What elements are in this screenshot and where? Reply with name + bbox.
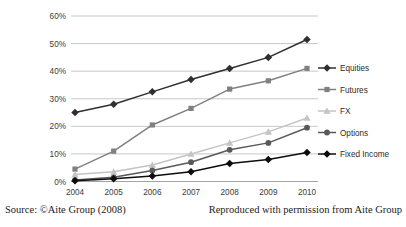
y-tick-label: 10% (50, 150, 66, 159)
x-tick-label: 2009 (259, 188, 278, 197)
marker-square (266, 78, 271, 83)
legend: EquitiesFuturesFXOptionsFixed Income (318, 64, 390, 159)
x-tick-label: 2007 (182, 188, 201, 197)
legend-item-options[interactable]: Options (318, 129, 368, 138)
marker-square (304, 66, 309, 71)
y-tick-label: 30% (50, 95, 66, 104)
caption-row: Source: ©Aite Group (2008) Reproduced wi… (0, 198, 406, 227)
legend-item-futures[interactable]: Futures (318, 86, 368, 95)
figure: 0%10%20%30%40%50%60%20042005200620072008… (0, 0, 406, 227)
marker-diamond (265, 54, 273, 62)
x-tick-label: 2004 (66, 188, 85, 197)
source-caption: Source: ©Aite Group (2008) (5, 204, 126, 215)
marker-square (72, 166, 77, 171)
marker-diamond (265, 156, 273, 164)
permission-caption: Reproduced with permission from Aite Gro… (209, 204, 402, 215)
legend-label: Options (340, 129, 368, 138)
marker-square (188, 106, 193, 111)
marker-diamond (149, 172, 157, 180)
series-fx (71, 115, 310, 178)
marker-square (150, 122, 155, 127)
legend-item-equities[interactable]: Equities (318, 64, 369, 73)
marker-circle (265, 140, 271, 146)
legend-item-fixed-income[interactable]: Fixed Income (318, 150, 390, 159)
marker-circle (304, 125, 310, 131)
y-tick-label: 40% (50, 67, 66, 76)
marker-square (227, 86, 232, 91)
legend-label: Futures (340, 86, 368, 95)
marker-circle (324, 130, 330, 136)
y-tick-label: 20% (50, 122, 66, 131)
legend-label: Equities (340, 64, 369, 73)
marker-diamond (71, 109, 79, 117)
marker-diamond (303, 149, 311, 157)
y-tick-label: 50% (50, 40, 66, 49)
marker-circle (227, 147, 233, 153)
marker-square (111, 149, 116, 154)
x-tick-label: 2010 (298, 188, 317, 197)
series-equities (71, 36, 311, 117)
x-tick-label: 2005 (105, 188, 124, 197)
y-tick-label: 60% (50, 12, 66, 21)
marker-diamond (187, 76, 195, 84)
chart-area: 0%10%20%30%40%50%60%20042005200620072008… (0, 0, 406, 198)
marker-diamond (149, 88, 157, 96)
marker-diamond (323, 150, 331, 158)
marker-circle (188, 159, 194, 165)
legend-label: Fixed Income (340, 150, 390, 159)
marker-diamond (110, 100, 118, 108)
legend-label: FX (340, 107, 351, 116)
x-tick-label: 2008 (221, 188, 240, 197)
marker-diamond (187, 168, 195, 176)
series-line (75, 153, 307, 181)
marker-triangle (303, 115, 310, 121)
marker-diamond (323, 64, 331, 72)
marker-diamond (71, 177, 79, 185)
marker-diamond (226, 160, 234, 168)
line-chart: 0%10%20%30%40%50%60%20042005200620072008… (0, 0, 406, 198)
marker-diamond (303, 36, 311, 44)
y-tick-label: 0% (54, 178, 66, 187)
marker-square (324, 87, 329, 92)
x-tick-label: 2006 (143, 188, 162, 197)
legend-item-fx[interactable]: FX (318, 107, 351, 116)
